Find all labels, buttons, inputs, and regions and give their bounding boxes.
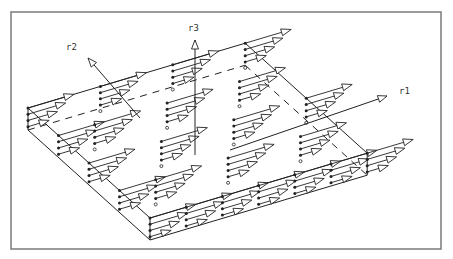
node-open-dot [171,88,174,91]
node-open-dot [93,148,96,151]
node-open-dot [244,66,247,69]
node-open-dot [227,181,230,184]
plate-vector-field-diagram: r3 r2 r1 [0,0,453,259]
node-open-dot [299,160,302,163]
axis-label-r3: r3 [188,23,199,33]
node-open-dot [160,165,163,168]
node-open-dot [154,203,157,206]
node-open-dot [99,110,102,113]
axis-label-r1: r1 [399,86,410,96]
node-open-dot [232,143,235,146]
node-open-dot [238,105,241,108]
axis-label-r2: r2 [66,42,77,52]
node-open-dot [166,126,169,129]
